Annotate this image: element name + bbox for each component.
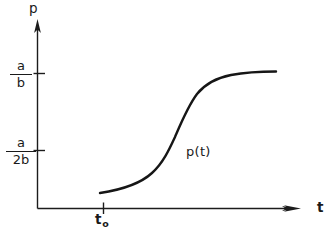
curve-annotation-label: p(t) — [186, 145, 211, 158]
x-tick-label-t-zero: to — [95, 213, 109, 229]
y-tick-label-a-over-2b: a 2b — [6, 136, 36, 167]
p-axis-label: p — [29, 2, 38, 16]
fraction-numerator: a — [10, 59, 32, 75]
tick-label-base: t — [95, 211, 102, 227]
figure-canvas — [0, 0, 332, 252]
fraction-denominator: b — [10, 75, 32, 90]
t-axis-label: t — [317, 201, 323, 215]
logistic-curve — [100, 72, 276, 194]
y-tick-label-a-over-b: a b — [10, 59, 32, 90]
tick-label-subscript: o — [102, 218, 109, 229]
logistic-growth-figure: p t a b a 2b to p(t) — [0, 0, 332, 252]
fraction-denominator: 2b — [6, 152, 36, 167]
fraction-numerator: a — [6, 136, 36, 152]
